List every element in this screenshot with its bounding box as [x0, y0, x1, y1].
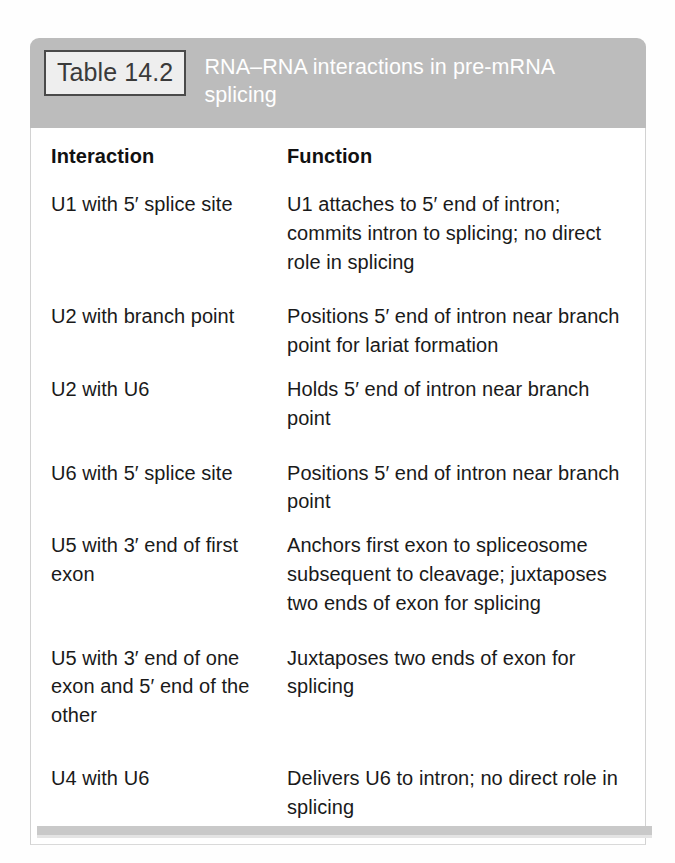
cell-interaction: U2 with branch point	[51, 302, 275, 331]
table-body: Interaction Function U1 with 5′ splice s…	[30, 128, 646, 845]
table-header-band: Table 14.2 RNA–RNA interactions in pre-m…	[30, 38, 646, 128]
cell-function: Positions 5′ end of intron near branch p…	[287, 302, 629, 360]
table-title: RNA–RNA interactions in pre-mRNA splicin…	[204, 54, 632, 109]
cell-function: Anchors first exon to spliceosome subseq…	[287, 531, 629, 617]
table-row: U1 with 5′ splice site U1 attaches to 5′…	[51, 190, 629, 276]
table-number-badge: Table 14.2	[44, 50, 186, 96]
cell-interaction: U5 with 3′ end of first exon	[51, 531, 275, 589]
cell-interaction: U1 with 5′ splice site	[51, 190, 275, 219]
table-row: U2 with U6 Holds 5′ end of intron near b…	[51, 375, 629, 433]
table-row: U5 with 3′ end of first exon Anchors fir…	[51, 531, 629, 617]
cell-interaction: U5 with 3′ end of one exon and 5′ end of…	[51, 644, 275, 730]
cell-interaction: U2 with U6	[51, 375, 275, 404]
table-row: U6 with 5′ splice site Positions 5′ end …	[51, 459, 629, 517]
table-column-header-row: Interaction Function	[51, 144, 629, 168]
card-drop-shadow-fade	[37, 835, 652, 838]
cell-interaction: U6 with 5′ splice site	[51, 459, 275, 488]
column-header-interaction: Interaction	[51, 144, 275, 168]
card-drop-shadow	[37, 826, 652, 835]
cell-function: Delivers U6 to intron; no direct role in…	[287, 764, 629, 822]
table-row: U5 with 3′ end of one exon and 5′ end of…	[51, 644, 629, 730]
table-row: U4 with U6 Delivers U6 to intron; no dir…	[51, 764, 629, 822]
table-row: U2 with branch point Positions 5′ end of…	[51, 302, 629, 360]
column-header-function: Function	[287, 144, 629, 168]
table-card: Table 14.2 RNA–RNA interactions in pre-m…	[30, 38, 646, 845]
cell-function: Positions 5′ end of intron near branch p…	[287, 459, 629, 517]
page-root: Table 14.2 RNA–RNA interactions in pre-m…	[0, 0, 675, 863]
cell-function: U1 attaches to 5′ end of intron; commits…	[287, 190, 629, 276]
cell-function: Holds 5′ end of intron near branch point	[287, 375, 629, 433]
cell-interaction: U4 with U6	[51, 764, 275, 793]
cell-function: Juxtaposes two ends of exon for splicing	[287, 644, 629, 702]
